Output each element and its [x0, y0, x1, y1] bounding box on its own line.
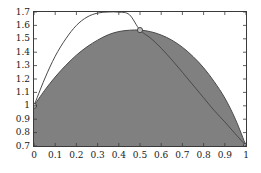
x-axis-tick-labels: 00.10.20.30.40.50.60.70.80.91: [0, 151, 261, 167]
x-tick-label: 0.6: [154, 151, 168, 160]
x-tick-label: 0.9: [218, 151, 232, 160]
y-tick-label: 1.3: [2, 61, 30, 70]
x-tick-label: 0.8: [196, 151, 210, 160]
marker-peak: [137, 27, 142, 32]
x-tick-label: 0.4: [112, 151, 126, 160]
x-tick-label: 0.3: [90, 151, 104, 160]
y-tick-label: 1.5: [2, 34, 30, 43]
y-tick-label: 1.1: [2, 88, 30, 97]
y-tick-label: 0.8: [2, 128, 30, 137]
filled-area-curve-fill: [34, 30, 246, 146]
y-axis-tick-labels: 0.70.80.911.11.21.31.41.51.61.7: [0, 0, 30, 173]
chart-figure: 0.70.80.911.11.21.31.41.51.61.7 00.10.20…: [0, 0, 261, 173]
y-tick-label: 1: [2, 101, 30, 110]
y-tick-label: 0.9: [2, 115, 30, 124]
y-tick-label: 0.7: [2, 142, 30, 151]
x-tick-label: 1: [243, 151, 249, 160]
y-tick-label: 1.2: [2, 75, 30, 84]
x-tick-label: 0.1: [48, 151, 62, 160]
y-tick-label: 1.4: [2, 48, 30, 57]
plot-svg: [34, 12, 246, 146]
x-tick-label: 0.2: [69, 151, 83, 160]
x-tick-label: 0: [31, 151, 37, 160]
x-tick-label: 0.5: [133, 151, 147, 160]
y-tick-label: 1.7: [2, 8, 30, 17]
plot-area: [33, 11, 247, 147]
x-tick-label: 0.7: [175, 151, 189, 160]
y-tick-label: 1.6: [2, 21, 30, 30]
